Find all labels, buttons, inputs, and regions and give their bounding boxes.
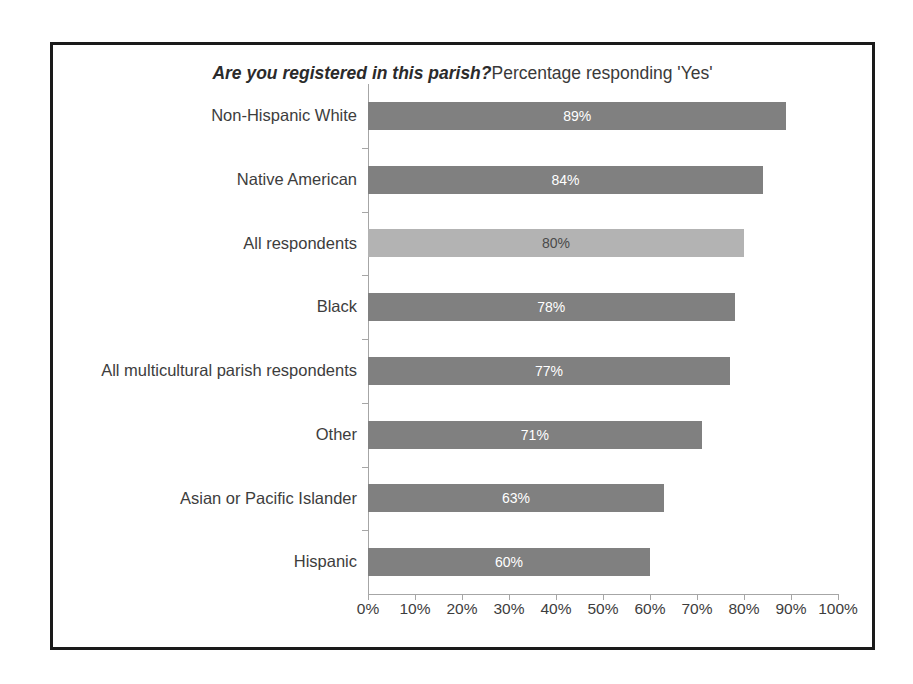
- x-axis-tick-label: 20%: [446, 600, 477, 618]
- y-axis-tick: [362, 467, 368, 468]
- bar-value-label: 63%: [502, 484, 530, 512]
- bar-value-label: 77%: [535, 357, 563, 385]
- bar-row: Native American84%: [368, 148, 838, 212]
- x-axis-tick-label: 100%: [818, 600, 858, 618]
- category-label: Hispanic: [294, 530, 357, 594]
- bar: 71%: [368, 421, 702, 449]
- chart-frame: Are you registered in this parish?Percen…: [50, 42, 875, 650]
- y-axis-tick: [362, 212, 368, 213]
- x-axis-tick-label: 70%: [681, 600, 712, 618]
- chart-title-subtitle: Percentage responding 'Yes': [492, 63, 713, 83]
- chart-title-question: Are you registered in this parish?: [212, 63, 491, 83]
- bar-row: Black78%: [368, 275, 838, 339]
- y-axis-tick: [362, 275, 368, 276]
- x-axis-tick-label: 0%: [357, 600, 379, 618]
- category-label: Black: [317, 275, 357, 339]
- bar-row: All respondents80%: [368, 212, 838, 276]
- bar-row: Asian or Pacific Islander63%: [368, 467, 838, 531]
- category-label: Asian or Pacific Islander: [180, 467, 357, 531]
- bar-row: All multicultural parish respondents77%: [368, 339, 838, 403]
- x-axis-tick-label: 40%: [540, 600, 571, 618]
- bar-value-label: 89%: [563, 102, 591, 130]
- x-axis-tick-label: 10%: [399, 600, 430, 618]
- bar-row: Hispanic60%: [368, 530, 838, 594]
- bar-row: Non-Hispanic White89%: [368, 84, 838, 148]
- bar-value-label: 60%: [495, 548, 523, 576]
- category-label: Native American: [237, 148, 357, 212]
- chart-title: Are you registered in this parish?Percen…: [53, 63, 872, 84]
- x-axis-tick-label: 30%: [493, 600, 524, 618]
- bar: 63%: [368, 484, 664, 512]
- x-axis-tick-label: 90%: [775, 600, 806, 618]
- bar-value-label: 78%: [537, 293, 565, 321]
- x-axis-tick-label: 50%: [587, 600, 618, 618]
- category-label: All multicultural parish respondents: [101, 339, 357, 403]
- y-axis-tick: [362, 339, 368, 340]
- category-label: Other: [316, 403, 357, 467]
- x-axis-tick-label: 60%: [634, 600, 665, 618]
- plot-area: Non-Hispanic White89%Native American84%A…: [368, 84, 838, 594]
- category-label: Non-Hispanic White: [211, 84, 357, 148]
- bar: 84%: [368, 166, 763, 194]
- y-axis-tick: [362, 148, 368, 149]
- bar: 77%: [368, 357, 730, 385]
- category-label: All respondents: [243, 212, 357, 276]
- bar-value-label: 84%: [551, 166, 579, 194]
- bar: 89%: [368, 102, 786, 130]
- bar: 78%: [368, 293, 735, 321]
- bar-row: Other71%: [368, 403, 838, 467]
- y-axis-tick: [362, 530, 368, 531]
- y-axis-tick: [362, 403, 368, 404]
- bar: 60%: [368, 548, 650, 576]
- bar: 80%: [368, 229, 744, 257]
- x-axis-tick-label: 80%: [728, 600, 759, 618]
- bar-value-label: 80%: [542, 229, 570, 257]
- bar-value-label: 71%: [521, 421, 549, 449]
